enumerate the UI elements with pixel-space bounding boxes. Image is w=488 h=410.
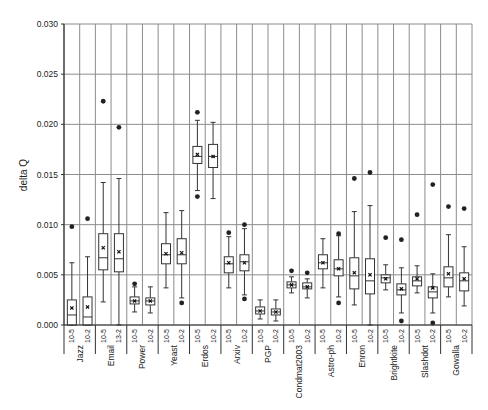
iqr-box xyxy=(99,234,108,270)
group-label: Astro-ph xyxy=(326,345,336,377)
box-label: 10-2 xyxy=(178,329,185,343)
box-email-10-5 xyxy=(99,99,108,302)
box-pgp-10-5 xyxy=(256,300,265,319)
group-label: Power xyxy=(137,345,147,369)
outlier-point xyxy=(336,231,341,236)
iqr-box xyxy=(444,267,453,287)
box-pgp-10-2 xyxy=(271,300,280,321)
box-arxiv-10-5 xyxy=(224,230,233,288)
iqr-box xyxy=(460,273,469,291)
group-label: Jazz xyxy=(75,345,85,362)
box-brightkite-10-5 xyxy=(381,235,390,290)
outlier-point xyxy=(242,297,247,302)
box-arxiv-10-2 xyxy=(240,222,249,301)
group-label: Gowalla xyxy=(451,345,461,376)
outlier-point xyxy=(117,125,122,130)
box-label: 10-5 xyxy=(225,329,232,343)
group-label: Yeast xyxy=(169,344,179,366)
y-tick-label: 0.010 xyxy=(37,220,59,230)
box-enron-10-2 xyxy=(366,170,375,325)
box-label: 10-5 xyxy=(382,329,389,343)
outlier-point xyxy=(446,204,451,209)
box-label: 10-2 xyxy=(335,329,342,343)
box-power-10-5 xyxy=(130,281,139,311)
box-gowalla-10-2 xyxy=(460,206,469,306)
box-label: 10-5 xyxy=(68,329,75,343)
box-label: 10-5 xyxy=(319,329,326,343)
box-label: 10-2 xyxy=(461,329,468,343)
box-label: 10-5 xyxy=(445,329,452,343)
iqr-box xyxy=(224,257,233,273)
outlier-point xyxy=(430,182,435,187)
group-label: Arxiv xyxy=(232,344,242,364)
outlier-point xyxy=(179,301,184,306)
box-enron-10-5 xyxy=(350,176,359,305)
box-label: 13-2 xyxy=(115,329,122,343)
iqr-box xyxy=(366,259,375,294)
box-condmat2003-10-5 xyxy=(287,268,296,292)
box-label: 10-5 xyxy=(163,329,170,343)
outlier-point xyxy=(399,319,404,324)
iqr-box xyxy=(177,239,186,264)
group-label: PGP xyxy=(263,345,273,363)
box-label: 10-5 xyxy=(194,329,201,343)
y-axis-label: delta Q xyxy=(18,159,29,191)
box-astro-ph-10-5 xyxy=(318,239,327,288)
outlier-point xyxy=(415,212,420,217)
y-tick-label: 0.000 xyxy=(37,320,59,330)
group-label: Brightkite xyxy=(389,345,399,381)
box-astro-ph-10-2 xyxy=(334,231,343,305)
group-label: Enron xyxy=(357,345,367,368)
outlier-point xyxy=(289,268,294,273)
outlier-point xyxy=(399,237,404,242)
box-label: 10-5 xyxy=(414,329,421,343)
outlier-point xyxy=(195,194,200,199)
box-brightkite-10-2 xyxy=(397,237,406,323)
iqr-box xyxy=(318,255,327,269)
box-label: 10-2 xyxy=(210,329,217,343)
iqr-box xyxy=(334,260,343,276)
outlier-point xyxy=(69,224,74,229)
box-slashdot-10-2 xyxy=(428,182,437,325)
box-label: 10-2 xyxy=(241,329,248,343)
box-erdos-10-2 xyxy=(209,122,218,198)
outlier-point xyxy=(242,222,247,227)
group-label: Erdos xyxy=(200,345,210,367)
box-label: 10-2 xyxy=(147,329,154,343)
y-tick-label: 0.030 xyxy=(37,19,59,29)
box-label: 10-5 xyxy=(100,329,107,343)
y-axis: 0.0000.0050.0100.0150.0200.0250.030 xyxy=(37,19,64,330)
outlier-point xyxy=(132,281,137,286)
box-label: 10-2 xyxy=(398,329,405,343)
group-label: Slashdot xyxy=(420,344,430,378)
group-label: Condmat2003 xyxy=(294,345,304,399)
outlier-point xyxy=(368,170,373,175)
y-tick-label: 0.020 xyxy=(37,119,59,129)
outlier-point xyxy=(101,99,106,104)
iqr-box xyxy=(83,297,92,325)
box-jazz-10-2 xyxy=(83,216,92,325)
y-tick-label: 0.005 xyxy=(37,270,59,280)
box-label: 10-2 xyxy=(272,329,279,343)
y-tick-label: 0.025 xyxy=(37,69,59,79)
box-label: 10-2 xyxy=(304,329,311,343)
box-erdos-10-5 xyxy=(193,110,202,199)
box-label: 10-5 xyxy=(257,329,264,343)
y-tick-label: 0.015 xyxy=(37,170,59,180)
box-label: 10-5 xyxy=(131,329,138,343)
iqr-box xyxy=(67,300,76,325)
outlier-point xyxy=(383,235,388,240)
box-label: 10-5 xyxy=(288,329,295,343)
box-power-10-2 xyxy=(146,287,155,313)
x-axis: 10-510-2Jazz10-513-2Email10-510-2Power10… xyxy=(64,325,472,398)
iqr-box xyxy=(114,234,123,272)
outlier-point xyxy=(462,206,467,211)
outlier-point xyxy=(305,270,310,275)
box-label: 10-2 xyxy=(429,329,436,343)
box-label: 10-5 xyxy=(351,329,358,343)
group-label: Email xyxy=(106,345,116,366)
outlier-point xyxy=(85,216,90,221)
outlier-point xyxy=(336,301,341,306)
grid-lines xyxy=(64,24,472,325)
box-label: 10-2 xyxy=(367,329,374,343)
